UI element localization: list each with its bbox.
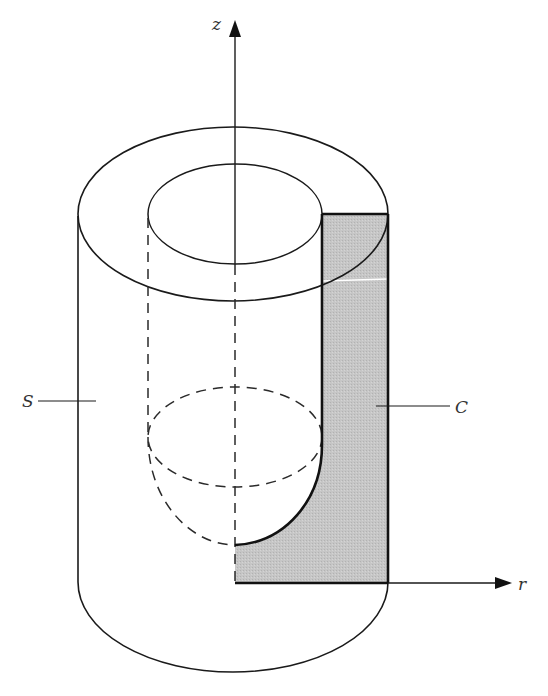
diagram-canvas: z r S C <box>0 0 548 696</box>
surface-s-label: S <box>22 391 34 411</box>
inner-hidden-bottom-arc <box>148 437 235 545</box>
r-axis-label: r <box>518 574 527 594</box>
region-c-fill <box>235 214 388 583</box>
region-c-label: C <box>455 397 468 417</box>
z-axis-arrowhead-icon <box>229 20 241 37</box>
outer-bottom-arc <box>78 582 388 672</box>
r-axis-arrowhead-icon <box>495 577 512 589</box>
z-axis-label: z <box>211 14 222 34</box>
